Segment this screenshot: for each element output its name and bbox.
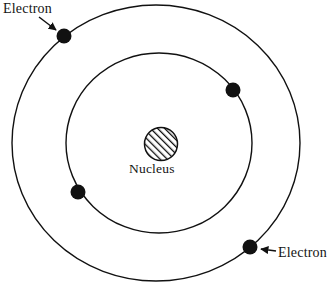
electron-outer-bottom-right <box>243 240 258 255</box>
atom-diagram-figure: Electron Electron Nucleus <box>0 0 334 287</box>
electron-inner-top-right <box>226 83 241 98</box>
electron-inner-bottom-left <box>71 185 86 200</box>
arrow-electron-bottom-right-icon <box>261 249 276 251</box>
nucleus-shape <box>145 128 178 161</box>
label-electron-bottom-right: Electron <box>278 245 327 261</box>
arrow-electron-top-left-icon <box>39 17 56 30</box>
electron-outer-top-left <box>57 29 72 44</box>
atom-diagram-canvas <box>0 0 334 287</box>
label-electron-top-left: Electron <box>3 1 52 17</box>
label-nucleus: Nucleus <box>129 161 175 177</box>
